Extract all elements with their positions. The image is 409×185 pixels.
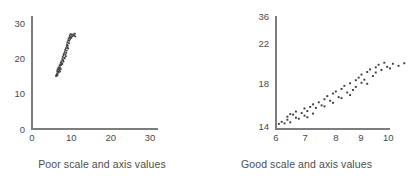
- data-point: [403, 62, 405, 64]
- x-tick-label: 30: [145, 132, 156, 143]
- data-point: [321, 104, 323, 106]
- two-panel-scatter-figure: 01020300102030 Poor scale and axis value…: [0, 0, 409, 185]
- data-point: [67, 48, 69, 50]
- data-point: [59, 71, 61, 73]
- plot-area-good-scale: 67891014182236: [204, 0, 409, 155]
- data-point: [292, 114, 294, 116]
- data-point: [63, 61, 65, 63]
- data-point: [278, 123, 280, 125]
- data-point: [63, 53, 65, 55]
- data-point: [74, 33, 76, 35]
- y-tick-label: 18: [258, 78, 269, 89]
- data-point: [332, 102, 334, 104]
- data-point: [69, 40, 71, 42]
- data-point: [64, 49, 66, 51]
- data-point: [326, 95, 328, 97]
- data-point: [312, 113, 314, 115]
- data-point: [61, 63, 63, 65]
- data-point: [352, 89, 354, 91]
- caption-good-scale: Good scale and axis values: [204, 158, 409, 170]
- data-point: [349, 94, 351, 96]
- data-point: [64, 58, 66, 60]
- x-tick-label: 9: [358, 132, 363, 143]
- data-points: [55, 33, 76, 77]
- data-point: [386, 66, 388, 68]
- data-point: [378, 64, 380, 66]
- y-tick-label: 10: [14, 88, 25, 99]
- scatter-plot-poor-scale: 01020300102030: [0, 0, 204, 155]
- data-point: [67, 45, 69, 47]
- data-point: [301, 112, 303, 114]
- data-point: [59, 66, 61, 68]
- axis-lines: [276, 16, 390, 129]
- x-tick-label: 6: [273, 132, 278, 143]
- data-point: [389, 67, 391, 69]
- data-point: [358, 77, 360, 79]
- x-tick-label: 10: [383, 132, 394, 143]
- data-points: [278, 61, 409, 125]
- data-point: [69, 36, 71, 38]
- caption-poor-scale: Poor scale and axis values: [0, 158, 204, 170]
- data-point: [363, 79, 365, 81]
- data-point: [355, 86, 357, 88]
- y-tick-label: 36: [258, 11, 269, 22]
- data-point: [57, 68, 59, 70]
- data-point: [295, 111, 297, 113]
- y-tick-label: 22: [258, 38, 269, 49]
- data-point: [62, 56, 64, 58]
- data-point: [341, 97, 343, 99]
- data-point: [341, 88, 343, 90]
- data-point: [361, 82, 363, 84]
- data-point: [306, 110, 308, 112]
- panel-poor-scale: 01020300102030 Poor scale and axis value…: [0, 0, 204, 185]
- x-tick-label: 7: [302, 132, 307, 143]
- data-point: [286, 116, 288, 118]
- data-point: [309, 106, 311, 108]
- data-point: [65, 55, 67, 57]
- data-point: [295, 117, 297, 119]
- data-point: [338, 96, 340, 98]
- data-point: [383, 62, 385, 64]
- x-tick-label: 20: [105, 132, 116, 143]
- x-tick-label: 8: [333, 132, 338, 143]
- data-point: [64, 51, 66, 53]
- data-point: [286, 119, 288, 121]
- data-point: [312, 103, 314, 105]
- data-point: [67, 41, 69, 43]
- data-point: [289, 113, 291, 115]
- data-point: [74, 36, 76, 38]
- data-point: [71, 37, 73, 39]
- data-point: [60, 68, 62, 70]
- data-point: [361, 74, 363, 76]
- y-tick-label: 0: [20, 124, 25, 135]
- data-point: [375, 72, 377, 74]
- data-point: [335, 91, 337, 93]
- data-point: [318, 101, 320, 103]
- data-point: [343, 85, 345, 87]
- x-tick-label: 0: [29, 132, 34, 143]
- data-point: [392, 63, 394, 65]
- data-point: [398, 65, 400, 67]
- data-point: [65, 54, 67, 56]
- data-point: [366, 83, 368, 85]
- data-point: [324, 105, 326, 107]
- data-point: [369, 68, 371, 70]
- plot-area-poor-scale: 01020300102030: [0, 0, 204, 155]
- data-point: [57, 74, 59, 76]
- data-point: [372, 75, 374, 77]
- axis-lines: [32, 16, 158, 129]
- data-point: [366, 71, 368, 73]
- data-point: [332, 93, 334, 95]
- data-point: [61, 60, 63, 62]
- data-point: [298, 118, 300, 120]
- data-point: [315, 107, 317, 109]
- data-point: [304, 115, 306, 117]
- data-point: [65, 47, 67, 49]
- y-tick-label: 14: [258, 121, 269, 132]
- data-point: [381, 69, 383, 71]
- data-point: [346, 92, 348, 94]
- data-point: [329, 100, 331, 102]
- data-point: [284, 122, 286, 124]
- data-point: [68, 42, 70, 44]
- data-point: [304, 108, 306, 110]
